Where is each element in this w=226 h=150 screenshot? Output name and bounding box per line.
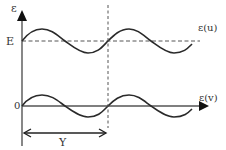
curve-u-label: ε(u) <box>198 22 218 33</box>
curve-v-label: ε(v) <box>199 92 218 103</box>
level-E-label: E <box>6 35 14 48</box>
horizontal-axis-v <box>22 101 209 111</box>
y-axis-label: ε <box>11 2 17 15</box>
vertical-axis <box>17 10 27 146</box>
period-label: Y <box>58 136 67 149</box>
wave-diagram: ε E ε(u) 0 ε(v) Y <box>0 0 226 150</box>
origin-label: 0 <box>14 100 20 111</box>
axis-arrow-up-icon <box>17 10 27 21</box>
